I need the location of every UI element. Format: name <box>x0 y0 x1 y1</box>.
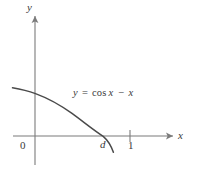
x-axis-label: x <box>178 130 183 141</box>
equation-minus: − <box>117 87 125 98</box>
root-label-d: d <box>100 139 106 150</box>
curve-equation-label: y=cosx−x <box>73 88 133 99</box>
origin-label: 0 <box>20 140 26 151</box>
x-tick-label-one: 1 <box>128 140 134 151</box>
graph-figure: y x 0 d 1 y=cosx−x <box>0 0 200 179</box>
equation-equals: = <box>81 87 89 98</box>
equation-term: x <box>129 87 134 98</box>
equation-argument: x <box>109 87 114 98</box>
equation-function: cos <box>92 87 107 98</box>
equation-lhs: y <box>73 87 78 98</box>
y-axis-label: y <box>27 2 32 13</box>
